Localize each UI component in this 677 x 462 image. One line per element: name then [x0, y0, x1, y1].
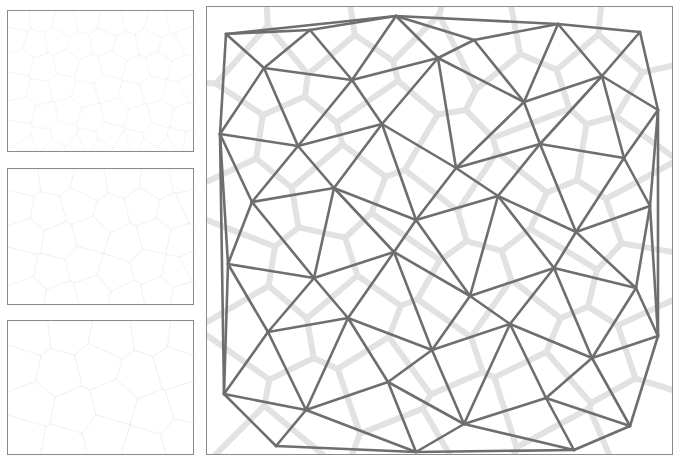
voronoi-edges — [7, 10, 194, 152]
panel-voronoi-medium — [7, 168, 194, 305]
voronoi-coarse-svg — [7, 320, 194, 455]
delaunay-voronoi-svg — [206, 6, 673, 455]
panel-border — [8, 169, 194, 305]
voronoi-medium-svg — [7, 168, 194, 305]
panel-border — [8, 11, 194, 152]
voronoi-edges — [7, 320, 194, 455]
figure-canvas — [0, 0, 677, 462]
panel-voronoi-fine — [7, 10, 194, 152]
panel-voronoi-coarse — [7, 320, 194, 455]
panel-delaunay-voronoi — [206, 6, 673, 455]
voronoi-fine-svg — [7, 10, 194, 152]
panel-border — [8, 321, 194, 455]
voronoi-edges — [7, 168, 194, 305]
